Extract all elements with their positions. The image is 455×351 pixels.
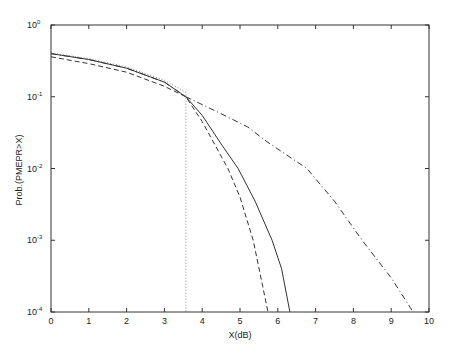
- x-tick-label: 6: [275, 316, 280, 326]
- x-tick-label: 1: [86, 316, 91, 326]
- x-tick-label: 2: [124, 316, 129, 326]
- x-tick-label: 9: [389, 316, 394, 326]
- x-tick-label: 10: [424, 316, 434, 326]
- x-tick-label: 5: [237, 316, 242, 326]
- x-tick-label: 0: [48, 316, 53, 326]
- x-tick-label: 7: [313, 316, 318, 326]
- x-tick-label: 3: [162, 316, 167, 326]
- x-tick-label: 4: [200, 316, 205, 326]
- background: [0, 0, 455, 351]
- x-tick-label: 8: [351, 316, 356, 326]
- y-axis-label: Prob.(PMEPR>X): [14, 135, 24, 206]
- x-axis-label: X(dB): [228, 330, 251, 340]
- chart: 012345678910 10010-110-210-310-4 X(dB) P…: [0, 0, 455, 351]
